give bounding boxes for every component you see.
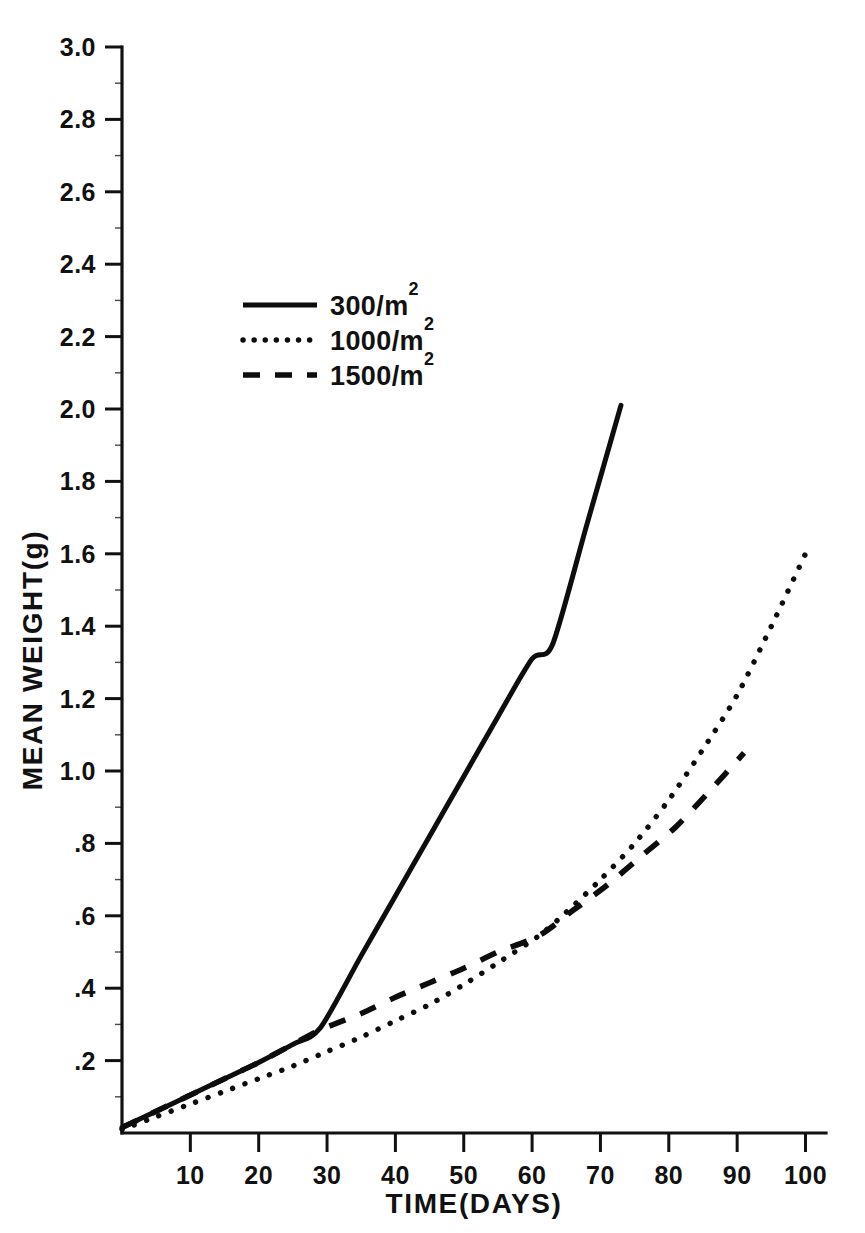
x-tick-label-9: 100: [784, 1161, 827, 1189]
y-axis-tick-labels: .2.4.6.81.01.21.41.61.82.02.22.42.62.83.…: [60, 33, 96, 1075]
y-axis-major-ticks: [105, 47, 122, 1061]
series-line-1000-m2: [122, 554, 806, 1130]
series-line-1500-m2: [122, 753, 744, 1128]
series-line-300-m2: [122, 405, 621, 1127]
x-tick-label-2: 30: [313, 1161, 342, 1189]
y-tick-label-9: 2.0: [60, 395, 96, 423]
x-tick-label-3: 40: [381, 1161, 410, 1189]
y-axis-title: MEAN WEIGHT(g): [17, 530, 48, 790]
y-tick-label-11: 2.4: [60, 250, 96, 278]
x-tick-label-7: 80: [654, 1161, 683, 1189]
x-tick-label-8: 90: [723, 1161, 752, 1189]
y-tick-label-10: 2.2: [60, 323, 96, 351]
x-tick-label-4: 50: [449, 1161, 478, 1189]
x-axis-tick-labels: 102030405060708090100: [176, 1161, 827, 1189]
y-tick-label-1: .4: [74, 974, 96, 1002]
y-tick-label-4: 1.0: [60, 757, 96, 785]
y-tick-label-3: .8: [74, 829, 96, 857]
y-tick-label-5: 1.2: [60, 685, 96, 713]
y-tick-label-12: 2.6: [60, 178, 96, 206]
x-tick-label-6: 70: [586, 1161, 615, 1189]
y-tick-label-8: 1.8: [60, 467, 96, 495]
series-layer: [122, 405, 806, 1129]
x-tick-label-5: 60: [518, 1161, 547, 1189]
y-tick-label-7: 1.6: [60, 540, 96, 568]
y-tick-label-0: .2: [74, 1047, 96, 1075]
x-axis-title: TIME(DAYS): [386, 1188, 563, 1219]
legend-label-0: 300/m2: [330, 279, 419, 321]
x-axis-major-ticks: [190, 1133, 805, 1152]
x-tick-label-1: 20: [244, 1161, 273, 1189]
y-tick-label-13: 2.8: [60, 105, 96, 133]
y-tick-label-6: 1.4: [60, 612, 96, 640]
chart-legend: 300/m21000/m21500/m2: [243, 279, 434, 391]
figure-root: .2.4.6.81.01.21.41.61.82.02.22.42.62.83.…: [0, 0, 865, 1233]
y-tick-label-2: .6: [74, 902, 96, 930]
line-chart: .2.4.6.81.01.21.41.61.82.02.22.42.62.83.…: [0, 0, 865, 1233]
y-tick-label-14: 3.0: [60, 33, 96, 61]
x-tick-label-0: 10: [176, 1161, 205, 1189]
